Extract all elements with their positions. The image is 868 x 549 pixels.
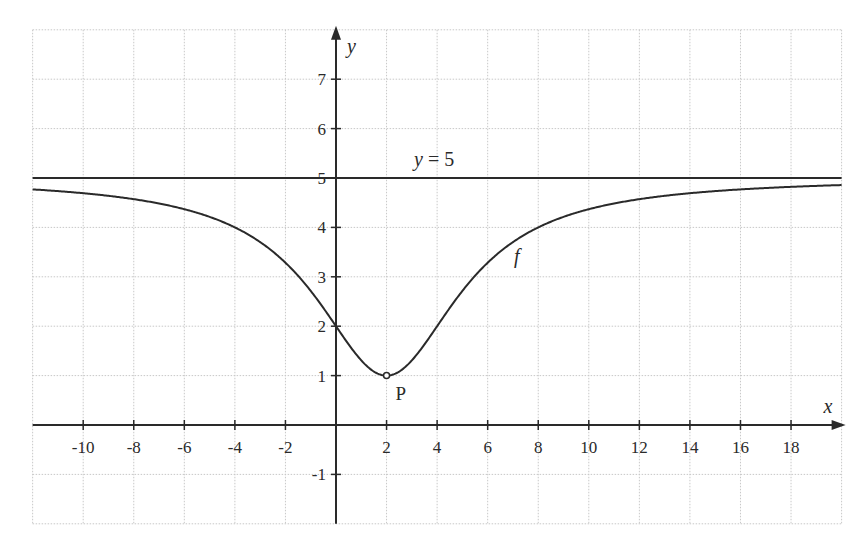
y-tick-label: -1 <box>312 465 326 484</box>
function-label-f: f <box>514 245 522 268</box>
x-tick-label: -10 <box>72 438 95 457</box>
x-tick-label: 14 <box>681 438 699 457</box>
asymptote-label: y = 5 <box>412 148 454 171</box>
y-tick-label: 4 <box>318 218 327 237</box>
x-tick-label: -2 <box>278 438 292 457</box>
x-tick-label: 4 <box>433 438 442 457</box>
x-tick-label: -6 <box>177 438 191 457</box>
x-tick-label: 12 <box>631 438 648 457</box>
y-tick-label: 2 <box>318 317 327 336</box>
point-p-label: P <box>396 383 407 404</box>
y-tick-label: 5 <box>318 169 327 188</box>
x-axis-arrow-icon <box>832 420 846 430</box>
x-tick-label: -4 <box>228 438 243 457</box>
x-tick-label: 10 <box>580 438 597 457</box>
x-tick-label: -8 <box>127 438 141 457</box>
x-tick-label: 6 <box>483 438 492 457</box>
x-axis-label: x <box>823 395 833 417</box>
annotations: Py = 5f <box>384 148 522 404</box>
point-p-open-circle-icon <box>384 373 390 379</box>
x-tick-label: 2 <box>382 438 391 457</box>
y-tick-label: 3 <box>318 268 327 287</box>
y-tick-label: 1 <box>318 367 327 386</box>
x-tick-label: 18 <box>783 438 800 457</box>
axis-labels: -10-8-6-4-224681012141618-11234567xy <box>72 35 833 485</box>
y-axis-arrow-icon <box>331 26 341 40</box>
x-tick-label: 8 <box>534 438 543 457</box>
y-tick-label: 7 <box>318 70 327 89</box>
y-tick-label: 6 <box>318 120 327 139</box>
x-tick-label: 16 <box>732 438 749 457</box>
y-axis-label: y <box>345 35 356 58</box>
function-graph: -10-8-6-4-224681012141618-11234567xy Py … <box>0 0 868 549</box>
